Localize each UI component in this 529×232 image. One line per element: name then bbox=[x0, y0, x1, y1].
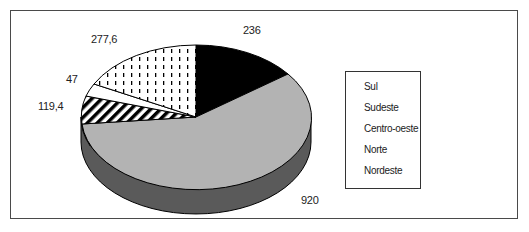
faint-footer-text bbox=[330, 222, 529, 232]
legend-label: Centro-oeste bbox=[364, 123, 418, 134]
legend-item-sudeste: Sudeste bbox=[364, 102, 399, 113]
legend-item-nordeste: Nordeste bbox=[364, 165, 402, 176]
legend-label: Sul bbox=[364, 81, 378, 92]
legend-item-norte: Norte bbox=[364, 144, 387, 155]
data-label-sul: 236 bbox=[243, 24, 260, 36]
legend-label: Sudeste bbox=[364, 102, 399, 113]
legend: Sul Sudeste Centro-oeste Norte Nordeste bbox=[345, 71, 421, 189]
data-label-nordeste: 277,6 bbox=[91, 33, 117, 45]
pie-chart bbox=[0, 0, 529, 232]
legend-item-centro-oeste: Centro-oeste bbox=[364, 123, 418, 134]
legend-label: Nordeste bbox=[364, 165, 402, 176]
data-label-sudeste: 920 bbox=[301, 194, 318, 206]
legend-label: Norte bbox=[364, 144, 387, 155]
data-label-norte: 47 bbox=[66, 73, 78, 85]
data-label-centro-oeste: 119,4 bbox=[38, 100, 63, 112]
legend-item-sul: Sul bbox=[364, 81, 378, 92]
